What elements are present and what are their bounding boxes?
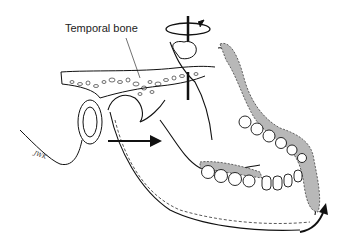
label-leader-line	[126, 38, 140, 78]
temporal-bone-label: Temporal bone	[65, 22, 138, 34]
mandible-diagram	[0, 0, 343, 243]
teeth	[202, 116, 307, 190]
translation-arrow-icon	[108, 135, 162, 147]
bone-texture	[70, 73, 198, 96]
